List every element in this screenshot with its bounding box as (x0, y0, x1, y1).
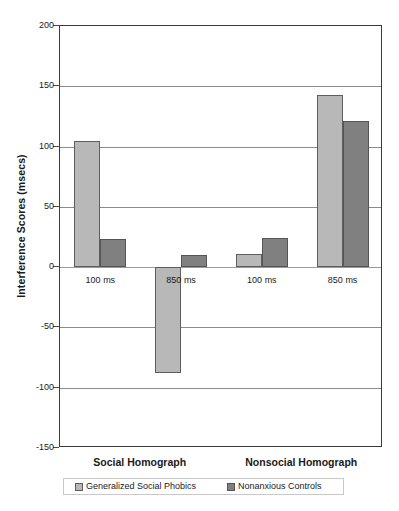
bar-controls-1 (181, 255, 207, 267)
group-label-0: Social Homograph (50, 456, 230, 468)
condition-label-2: 100 ms (222, 275, 302, 285)
legend-entry-0: Generalized Social Phobics (75, 481, 196, 492)
y-tick-label-200: 200 (10, 21, 54, 30)
condition-label-1: 850 ms (141, 275, 221, 285)
bar-controls-0 (100, 239, 126, 267)
group-labels: Social HomographNonsocial Homograph (59, 456, 382, 472)
condition-label-3: 850 ms (303, 275, 383, 285)
gridline--50 (60, 327, 381, 328)
y-tick-label-50: 50 (10, 201, 54, 210)
legend-swatch-1 (227, 483, 235, 491)
group-label-1: Nonsocial Homograph (211, 456, 391, 468)
y-tick-label-0: 0 (10, 262, 54, 271)
legend-label-1: Nonanxious Controls (238, 481, 322, 492)
bar-phobics-2 (236, 254, 262, 267)
gridline-150 (60, 86, 381, 87)
gridline--100 (60, 388, 381, 389)
legend-entry-1: Nonanxious Controls (227, 481, 322, 492)
y-tick-label--150: -150 (10, 443, 54, 452)
bar-phobics-3 (317, 95, 343, 267)
plot-area: 100 ms850 ms100 ms850 ms (59, 25, 382, 447)
gridline-0 (60, 267, 381, 268)
bar-chart-figure: Interference Scores (msecs) 200150100500… (0, 0, 399, 511)
legend-swatch-0 (75, 483, 83, 491)
bar-phobics-0 (74, 141, 100, 268)
y-tick-label--100: -100 (10, 382, 54, 391)
bar-controls-3 (343, 121, 369, 267)
legend-label-0: Generalized Social Phobics (86, 481, 196, 492)
condition-label-0: 100 ms (60, 275, 140, 285)
y-axis-tick-labels: 200150100500-50-100-150 (6, 25, 54, 447)
bar-controls-2 (262, 238, 288, 267)
y-tick-label-100: 100 (10, 141, 54, 150)
chart-legend: Generalized Social PhobicsNonanxious Con… (63, 478, 344, 495)
y-tick-label--50: -50 (10, 322, 54, 331)
y-tick-label-150: 150 (10, 81, 54, 90)
